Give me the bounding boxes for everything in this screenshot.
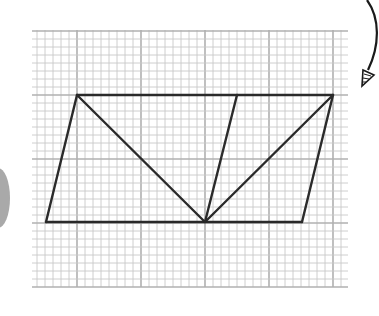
diagram-canvas — [0, 0, 379, 316]
curved-arrow-icon — [362, 0, 377, 86]
gray-blob — [0, 168, 10, 228]
grid-paper — [32, 30, 348, 287]
